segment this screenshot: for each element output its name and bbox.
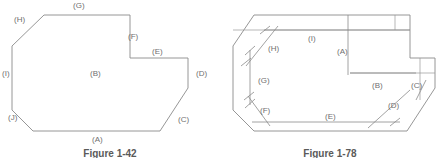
callout-B: (B) bbox=[372, 82, 383, 90]
callout-F: (F) bbox=[128, 33, 138, 41]
callout-F: (F) bbox=[260, 107, 270, 115]
callout-E: (E) bbox=[325, 113, 336, 121]
figure-left-panel: (G) (H) (F) (E) (D) (B) (I) (J) (C) (A) … bbox=[0, 0, 220, 158]
callout-H: (H) bbox=[268, 45, 279, 53]
callout-A: (A) bbox=[92, 136, 103, 144]
callout-G: (G) bbox=[258, 77, 270, 85]
callout-E: (E) bbox=[152, 48, 163, 56]
figure-right-panel: (I) (H) (A) (G) (B) (C) (D) (F) (E) Figu… bbox=[220, 0, 440, 158]
callout-D: (D) bbox=[388, 102, 399, 110]
callout-I: (I) bbox=[308, 35, 316, 43]
callout-J: (J) bbox=[8, 114, 17, 122]
figure-right-caption: Figure 1-78 bbox=[220, 148, 440, 158]
figure-right-drawing bbox=[220, 0, 440, 158]
callout-G: (G) bbox=[73, 2, 85, 10]
callout-B: (B) bbox=[90, 70, 101, 78]
callout-C: (C) bbox=[178, 116, 189, 124]
figure-left-caption: Figure 1-42 bbox=[0, 148, 220, 158]
callout-C: (C) bbox=[411, 82, 422, 90]
figure-sheet: (G) (H) (F) (E) (D) (B) (I) (J) (C) (A) … bbox=[0, 0, 440, 158]
callout-H: (H) bbox=[14, 16, 25, 24]
callout-A: (A) bbox=[337, 48, 348, 56]
dim-tick-F-top bbox=[244, 92, 254, 100]
callout-I: (I) bbox=[2, 70, 10, 78]
callout-D: (D) bbox=[196, 70, 207, 78]
figure-left-drawing bbox=[0, 0, 220, 158]
